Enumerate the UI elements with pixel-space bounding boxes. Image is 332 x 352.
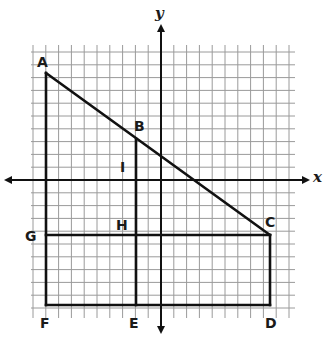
point-label-C: C bbox=[265, 215, 275, 229]
point-label-I: I bbox=[120, 160, 125, 174]
y-axis-down-arrow-icon bbox=[157, 326, 165, 334]
point-label-D: D bbox=[265, 316, 277, 330]
x-axis-left-arrow-icon bbox=[4, 176, 12, 184]
figure-segments bbox=[46, 73, 270, 305]
point-label-B: B bbox=[134, 119, 145, 133]
y-axis-up-arrow-icon bbox=[157, 24, 165, 32]
axes bbox=[4, 24, 310, 334]
point-label-E: E bbox=[129, 316, 139, 330]
y-axis-label: y bbox=[155, 6, 164, 21]
x-axis-right-arrow-icon bbox=[302, 176, 310, 184]
coordinate-diagram bbox=[0, 0, 332, 352]
x-axis-label: x bbox=[313, 170, 322, 185]
point-label-H: H bbox=[116, 218, 128, 232]
point-label-F: F bbox=[40, 316, 50, 330]
grid bbox=[31, 45, 295, 318]
point-label-A: A bbox=[37, 55, 48, 69]
point-label-G: G bbox=[25, 229, 37, 243]
